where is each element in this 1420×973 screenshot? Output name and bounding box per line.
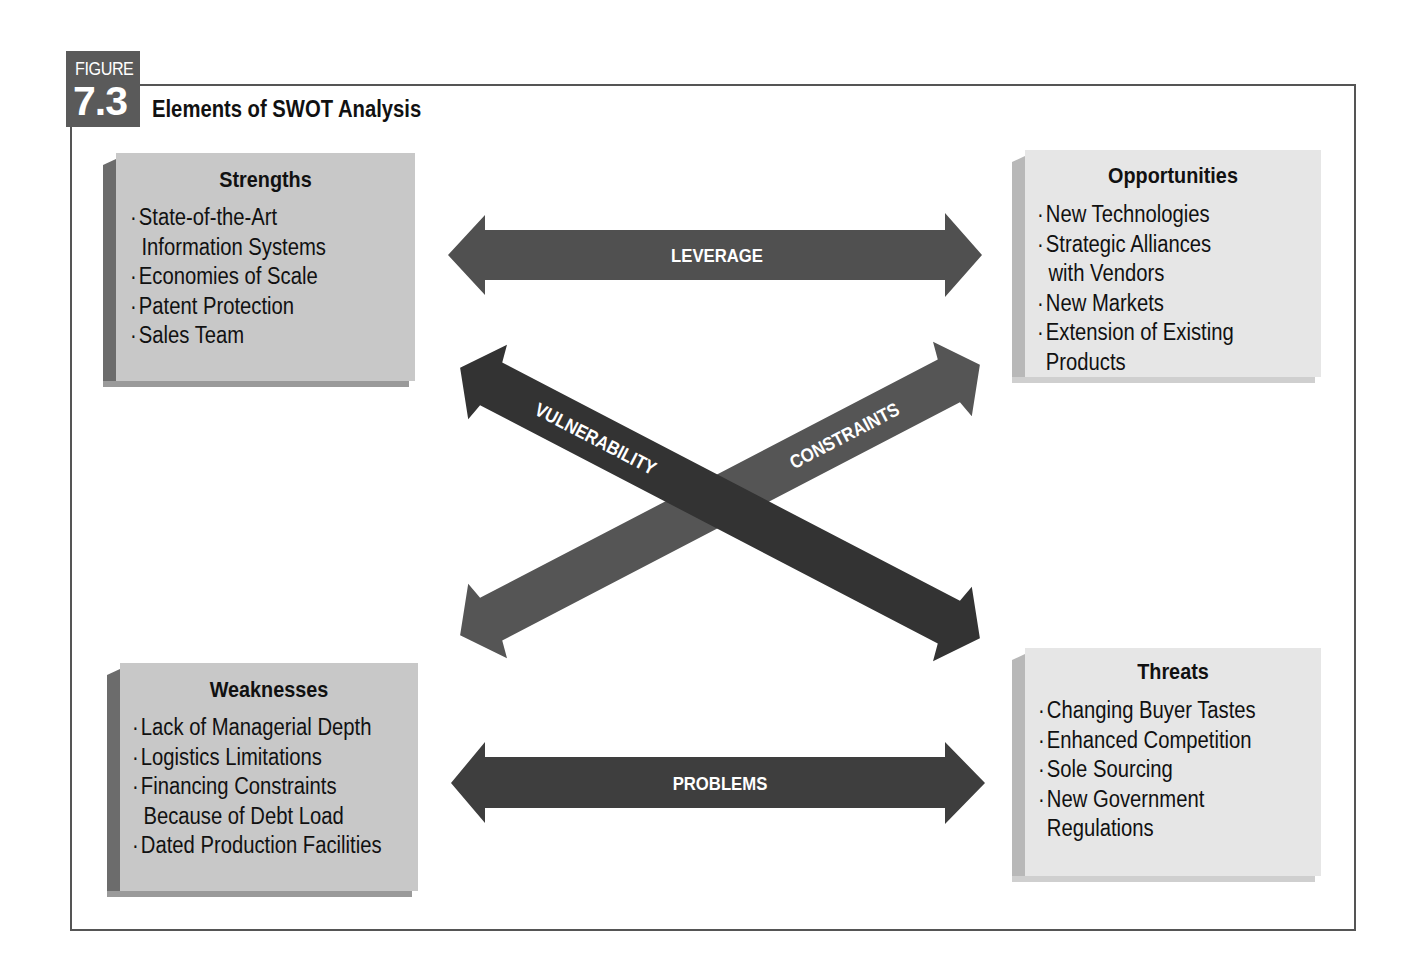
opportunities-title: Opportunities xyxy=(1040,163,1306,189)
list-item: Regulations xyxy=(1038,814,1256,844)
list-item: ·Economies of Scale xyxy=(130,262,326,292)
list-item: ·New Government xyxy=(1038,785,1256,815)
list-item: ·New Markets xyxy=(1037,289,1234,319)
list-item: Information Systems xyxy=(130,233,326,263)
strengths-box: Strengths ·State-of-the-Art Information … xyxy=(116,153,415,381)
list-item: ·Enhanced Competition xyxy=(1038,726,1256,756)
opportunities-box: Opportunities ·New Technologies ·Strateg… xyxy=(1025,150,1321,377)
threats-box: Threats ·Changing Buyer Tastes ·Enhanced… xyxy=(1025,648,1321,876)
weaknesses-box: Weaknesses ·Lack of Managerial Depth ·Lo… xyxy=(120,663,418,891)
problems-arrow: PROBLEMS xyxy=(451,742,985,824)
list-item: ·Strategic Alliances xyxy=(1037,230,1234,260)
threats-list: ·Changing Buyer Tastes ·Enhanced Competi… xyxy=(1038,696,1256,844)
list-item: Products xyxy=(1037,348,1234,378)
list-item: ·Logistics Limitations xyxy=(132,743,382,773)
problems-label: PROBLEMS xyxy=(673,773,768,794)
list-item: ·Sales Team xyxy=(130,321,326,351)
list-item: ·Sole Sourcing xyxy=(1038,755,1256,785)
leverage-arrow: LEVERAGE xyxy=(448,213,982,297)
leverage-label: LEVERAGE xyxy=(671,245,763,266)
list-item: ·Extension of Existing xyxy=(1037,318,1234,348)
opportunities-list: ·New Technologies ·Strategic Alliances w… xyxy=(1037,200,1234,377)
list-item: ·Changing Buyer Tastes xyxy=(1038,696,1256,726)
threats-title: Threats xyxy=(1040,659,1306,685)
list-item: ·Patent Protection xyxy=(130,292,326,322)
list-item: ·Lack of Managerial Depth xyxy=(132,713,382,743)
strengths-list: ·State-of-the-Art Information Systems ·E… xyxy=(130,203,326,351)
list-item: ·New Technologies xyxy=(1037,200,1234,230)
list-item: Because of Debt Load xyxy=(132,802,382,832)
weaknesses-title: Weaknesses xyxy=(135,677,403,703)
weaknesses-list: ·Lack of Managerial Depth ·Logistics Lim… xyxy=(132,713,382,861)
list-item: ·State-of-the-Art xyxy=(130,203,326,233)
list-item: ·Financing Constraints xyxy=(132,772,382,802)
list-item: ·Dated Production Facilities xyxy=(132,831,382,861)
list-item: with Vendors xyxy=(1037,259,1234,289)
strengths-title: Strengths xyxy=(131,167,400,193)
